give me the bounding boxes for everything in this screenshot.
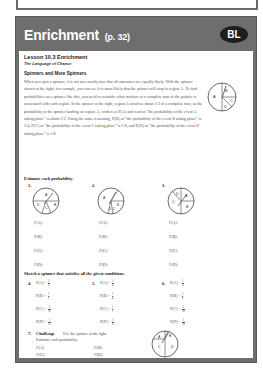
worksheet-page: Lesson 10.3 Enrichment The Language of C… — [19, 51, 253, 358]
intro-spinner: A B C D — [206, 81, 238, 113]
previous-card-bottom — [16, 0, 258, 10]
p3-pd-label: P(D): — [169, 262, 178, 267]
card-title-text: Enrichment — [24, 27, 99, 43]
p3-pb-label: P(B): — [169, 234, 178, 239]
p7-pa-label: P(A): — [36, 345, 45, 350]
page-reference: (p. 32) — [105, 32, 130, 42]
p6-condition-c: P(C) = 316 — [170, 306, 185, 313]
estimate-heading: Estimate each probability. — [24, 176, 73, 181]
p2-pb-label: P(B): — [99, 234, 108, 239]
p5-condition-a: P(A) = 14 — [100, 280, 114, 287]
problem-4-number: 4. — [28, 281, 31, 286]
p3-pa-label: P(A): — [169, 220, 178, 225]
p4-condition-c: P(C) = 112 — [36, 306, 51, 313]
section-heading: Spinners and More Spinners — [24, 71, 86, 76]
p5-condition-b: P(B) = 14 — [100, 293, 113, 300]
intro-paragraph: When you spin a spinner, it is not neces… — [24, 78, 204, 137]
svg-text:B: B — [225, 88, 228, 93]
challenge-text-2: Estimate each probability. — [36, 337, 78, 342]
p4-condition-d: P(D) = 112 — [36, 319, 51, 326]
p4-condition-b: P(B) = 13 — [36, 293, 49, 300]
p7-pd-label: P(D): — [94, 352, 103, 357]
p2-pd-label: P(D): — [99, 262, 108, 267]
spinner-1: A B C D — [31, 186, 61, 216]
problem-5-number: 5. — [92, 281, 95, 286]
svg-text:D: D — [224, 104, 227, 109]
problem-3-number: 3. — [162, 183, 165, 188]
problem-6-number: 6. — [162, 281, 165, 286]
p7-pb-label: P(B): — [94, 345, 103, 350]
p1-pa-label: P(A): — [34, 220, 43, 225]
problem-2-number: 2. — [92, 183, 95, 188]
p6-condition-d: P(D) = 116 — [170, 319, 185, 326]
p2-pa-label: P(A): — [99, 220, 108, 225]
card-header: Enrichment (p. 32) BL — [16, 17, 256, 52]
p5-condition-c: P(C) = 13 — [100, 306, 113, 313]
challenge-spinner: A B C D — [150, 329, 180, 359]
p5-condition-d: P(D) = 16 — [100, 319, 114, 326]
p3-pc-label: P(C): — [169, 248, 178, 253]
enrichment-card: Enrichment (p. 32) BL Lesson 10.3 Enrich… — [16, 17, 256, 362]
p1-pb-label: P(B): — [34, 234, 43, 239]
svg-text:C: C — [230, 98, 233, 103]
sketch-heading: Sketch a spinner that satisfies all the … — [24, 271, 125, 276]
spinner-2: A B C D — [96, 186, 126, 216]
p6-condition-b: P(B) = 58 — [170, 293, 183, 300]
challenge-label: Challenge — [36, 331, 55, 336]
spinner-3: A B C D — [166, 186, 196, 216]
level-badge: BL — [220, 26, 248, 43]
p1-pd-label: P(D): — [34, 262, 43, 267]
p2-pc-label: P(C): — [99, 248, 108, 253]
problem-7-number: 7. — [28, 331, 31, 336]
lesson-subtitle: The Language of Chance — [24, 61, 72, 66]
challenge-text-1: Use the spinner at the right. — [63, 331, 107, 336]
svg-text:A: A — [213, 94, 216, 99]
card-title: Enrichment (p. 32) — [24, 27, 130, 43]
svg-text:B: B — [117, 203, 119, 207]
p7-pc-label: P(C): — [36, 352, 45, 357]
p1-pc-label: P(C): — [34, 248, 43, 253]
lesson-title: Lesson 10.3 Enrichment — [24, 54, 87, 60]
p4-condition-a: P(A) = 12 — [36, 280, 50, 287]
p6-condition-a: P(A) = 18 — [170, 280, 184, 287]
